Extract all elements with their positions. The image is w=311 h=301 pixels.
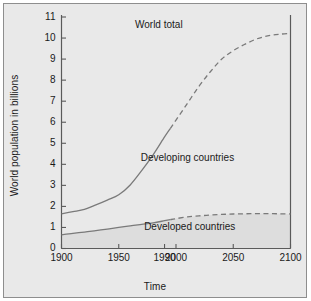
world-total-dashed-segment <box>170 33 290 128</box>
y-tick-label: 4 <box>32 158 56 169</box>
y-tick-label: 10 <box>32 32 56 43</box>
x-tick-label: 2000 <box>156 252 196 263</box>
y-tick-label: 7 <box>32 95 56 106</box>
y-axis-title: World population in billions <box>9 56 20 216</box>
chart-figure: World population in billions Time 012345… <box>0 0 310 301</box>
y-tick-label: 2 <box>32 200 56 211</box>
y-tick-label: 11 <box>32 11 56 22</box>
y-tick-label: 5 <box>32 137 56 148</box>
y-tick-label: 9 <box>32 53 56 64</box>
x-tick-label: 2050 <box>213 252 253 263</box>
series-annotation: Developing countries <box>141 152 234 163</box>
x-tick-label: 1950 <box>99 252 139 263</box>
y-tick-label: 8 <box>32 74 56 85</box>
world-total-solid-segment <box>62 129 171 214</box>
y-tick-label: 3 <box>32 179 56 190</box>
x-tick-label: 2100 <box>271 252 311 263</box>
series-annotation: World total <box>135 19 183 30</box>
series-annotation: Developed countries <box>144 221 235 232</box>
x-axis-title: Time <box>0 281 310 292</box>
y-tick-label: 1 <box>32 221 56 232</box>
y-tick-label: 6 <box>32 116 56 127</box>
x-tick-label: 1900 <box>42 252 82 263</box>
